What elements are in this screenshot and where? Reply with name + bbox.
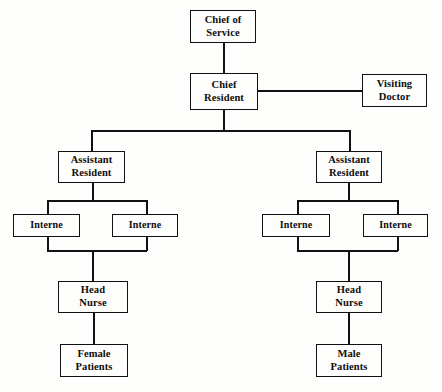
node-label-line: Assistant xyxy=(328,154,370,167)
connector-interne-left-top-bus xyxy=(47,200,147,202)
node-interne-right-2: Interne xyxy=(363,214,428,237)
node-label-line: Doctor xyxy=(379,91,411,104)
connector-interne-left-bottom-bus xyxy=(47,250,147,252)
connector-interne-right-1-riser xyxy=(297,237,299,251)
node-label-line: Interne xyxy=(379,219,411,231)
node-label-line: Chief xyxy=(212,79,237,92)
node-label-line: Patients xyxy=(76,361,113,374)
node-male-patients: MalePatients xyxy=(316,344,382,377)
node-label-line: Service xyxy=(206,27,239,40)
org-chart-canvas: Chief ofServiceChiefResidentVisitingDoct… xyxy=(0,0,442,392)
node-label-line: Head xyxy=(81,284,105,297)
node-label-line: Assistant xyxy=(71,154,113,167)
connector-assistant-bus xyxy=(91,130,350,132)
node-chief-of-service: Chief ofService xyxy=(190,10,256,43)
node-label-line: Nurse xyxy=(335,297,362,310)
node-interne-left-1: Interne xyxy=(13,214,80,237)
node-label-line: Patients xyxy=(331,361,368,374)
node-label-line: Interne xyxy=(280,219,312,231)
node-assistant-resident-right: AssistantResident xyxy=(316,151,382,183)
connector-assistant-left-drop xyxy=(91,130,93,151)
node-head-nurse-right: HeadNurse xyxy=(316,281,382,313)
connector-interne-left-2-riser xyxy=(146,237,148,251)
connector-interne-right-2-riser xyxy=(397,237,399,251)
node-label-line: Visiting xyxy=(377,78,412,91)
node-label-line: Interne xyxy=(129,219,161,231)
connector-assistant-right-drop xyxy=(349,130,351,151)
connector-male-patients-stem xyxy=(348,313,350,345)
connector-chief-resident-to-visiting-doctor xyxy=(258,90,362,92)
node-label-line: Head xyxy=(337,284,361,297)
connector-interne-left-1-riser xyxy=(47,237,49,251)
node-interne-right-1: Interne xyxy=(262,214,330,237)
connector-assistant-right-stem xyxy=(348,183,350,201)
node-assistant-resident-left: AssistantResident xyxy=(58,151,125,183)
connector-head-nurse-left-stem xyxy=(92,250,94,282)
connector-female-patients-stem xyxy=(93,313,95,345)
node-label-line: Resident xyxy=(72,167,112,180)
connector-interne-right-2-drop xyxy=(397,200,399,215)
connector-chief-service-to-chief-resident xyxy=(223,43,225,73)
node-label-line: Chief of xyxy=(205,14,242,27)
connector-interne-right-top-bus xyxy=(297,200,398,202)
node-female-patients: FemalePatients xyxy=(60,344,128,377)
node-interne-left-2: Interne xyxy=(112,214,178,237)
connector-interne-left-1-drop xyxy=(47,200,49,215)
connector-chief-resident-stem-down xyxy=(223,110,225,131)
connector-head-nurse-right-stem xyxy=(348,250,350,282)
node-head-nurse-left: HeadNurse xyxy=(58,281,128,313)
connector-assistant-left-stem xyxy=(92,183,94,201)
node-label-line: Nurse xyxy=(79,297,106,310)
node-label-line: Interne xyxy=(30,219,62,231)
connector-interne-right-1-drop xyxy=(297,200,299,215)
node-chief-resident: ChiefResident xyxy=(190,73,258,110)
node-visiting-doctor: VisitingDoctor xyxy=(362,74,427,107)
connector-interne-left-2-drop xyxy=(146,200,148,215)
node-label-line: Resident xyxy=(204,92,244,105)
node-label-line: Male xyxy=(337,348,360,361)
node-label-line: Resident xyxy=(329,167,369,180)
node-label-line: Female xyxy=(77,348,110,361)
